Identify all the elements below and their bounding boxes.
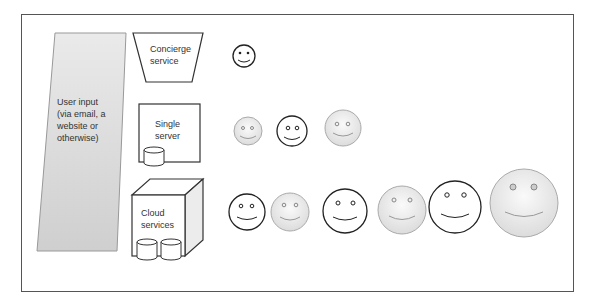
smiley-icon xyxy=(234,117,262,145)
smiley-icon xyxy=(490,169,558,237)
smiley-icon xyxy=(325,110,361,146)
smiley-icon xyxy=(233,45,255,67)
concierge-label: Concierge service xyxy=(150,43,191,67)
smiley-icon xyxy=(277,116,307,146)
user-input-label: User input (via email, a website or othe… xyxy=(57,96,106,144)
single-server-label: Single server xyxy=(155,118,180,142)
label-line: otherwise) xyxy=(57,132,106,144)
label-line: Cloud xyxy=(141,207,174,219)
label-line: service xyxy=(150,55,191,67)
cloud-services-label: Cloud services xyxy=(141,207,174,231)
smiley-icon xyxy=(378,186,426,234)
label-line: Concierge xyxy=(150,43,191,55)
smiley-icon xyxy=(229,194,265,230)
smiley-icon xyxy=(271,193,309,231)
smiley-icon xyxy=(429,181,481,233)
database-icon xyxy=(144,147,164,166)
diagram-canvas xyxy=(0,0,596,305)
database-icon xyxy=(161,239,181,260)
label-line: services xyxy=(141,219,174,231)
label-line: Single xyxy=(155,118,180,130)
database-icon xyxy=(137,239,157,260)
label-line: User input xyxy=(57,96,106,108)
label-line: (via email, a xyxy=(57,108,106,120)
label-line: server xyxy=(155,130,180,142)
label-line: website or xyxy=(57,120,106,132)
smiley-icon xyxy=(323,189,367,233)
